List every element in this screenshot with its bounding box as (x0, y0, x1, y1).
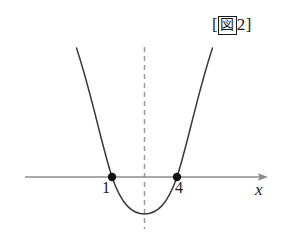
tick-label-1: 1 (102, 179, 110, 197)
figure-caption: [図2] (212, 15, 252, 36)
caption-bracket-close: ] (246, 15, 252, 34)
figure-container: [図2] x 1 4 (0, 0, 285, 234)
x-axis-label: x (255, 180, 263, 200)
caption-zu-glyph: 図 (218, 16, 237, 35)
caption-number: 2 (237, 15, 246, 34)
tick-label-4: 4 (175, 179, 183, 197)
